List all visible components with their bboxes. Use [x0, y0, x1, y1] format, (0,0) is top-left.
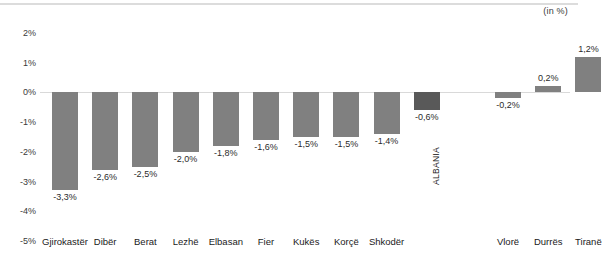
bar-vlor[interactable]: [495, 92, 521, 98]
y-axis: 2%1%0%-1%-2%-3%-4%-5%: [0, 33, 36, 241]
top-divider: [0, 3, 578, 5]
unit-note: (in %): [543, 6, 568, 16]
bar-value-label: -1,8%: [203, 148, 249, 158]
bar-kor[interactable]: [333, 92, 359, 137]
bar-value-label: -2,0%: [163, 154, 209, 164]
y-axis-tick-label: -4%: [0, 206, 36, 216]
y-axis-tick-label: 2%: [0, 28, 36, 38]
y-axis-tick-label: -3%: [0, 177, 36, 187]
bar-value-label: -0,6%: [404, 112, 450, 122]
x-axis-label-albania: ALBANIA: [431, 147, 441, 185]
bar-kuks[interactable]: [293, 92, 319, 137]
bar-fier[interactable]: [253, 92, 279, 140]
bar-elbasan[interactable]: [213, 92, 239, 145]
bar-lezh[interactable]: [173, 92, 199, 151]
bar-dibr[interactable]: [92, 92, 118, 169]
y-axis-tick-label: 0%: [0, 87, 36, 97]
bar-berat[interactable]: [132, 92, 158, 166]
bar-value-label: -3,3%: [42, 192, 88, 202]
bar-tiran[interactable]: [575, 57, 601, 93]
bar-value-label: -1,5%: [283, 139, 329, 149]
bar-albania[interactable]: [414, 92, 440, 110]
bar-value-label: 0,2%: [525, 73, 571, 83]
bar-value-label: -1,6%: [243, 142, 289, 152]
bar-value-label: -1,5%: [323, 139, 369, 149]
bar-value-label: 1,2%: [565, 44, 606, 54]
y-axis-tick-label: -2%: [0, 147, 36, 157]
bar-value-label: -2,5%: [122, 169, 168, 179]
bar-gjirokastr[interactable]: [52, 92, 78, 190]
bar-value-label: -2,6%: [82, 172, 128, 182]
y-axis-tick-label: 1%: [0, 58, 36, 68]
x-axis-label-tiran: Tiranë: [553, 236, 606, 247]
y-axis-tick-label: -1%: [0, 117, 36, 127]
bar-value-label: -1,4%: [364, 136, 410, 146]
x-axis-label-shkodr: Shkodër: [352, 236, 422, 247]
bar-value-label: -0,2%: [485, 100, 531, 110]
bar-shkodr[interactable]: [374, 92, 400, 134]
bar-durrs[interactable]: [535, 86, 561, 92]
plot-area: [40, 33, 570, 241]
